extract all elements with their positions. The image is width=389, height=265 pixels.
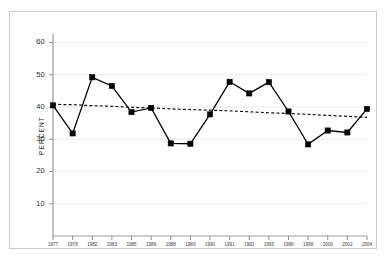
gridlines bbox=[53, 42, 367, 203]
data-line-series bbox=[53, 77, 367, 144]
data-point-markers bbox=[50, 75, 369, 147]
chart-frame: PERCENT 102030405060 1977197819821983198… bbox=[9, 11, 377, 249]
axis-lines bbox=[53, 34, 367, 236]
x-axis-ticks bbox=[53, 236, 367, 240]
plot-area bbox=[10, 12, 376, 248]
chart-figure: PERCENT 102030405060 1977197819821983198… bbox=[0, 0, 389, 265]
